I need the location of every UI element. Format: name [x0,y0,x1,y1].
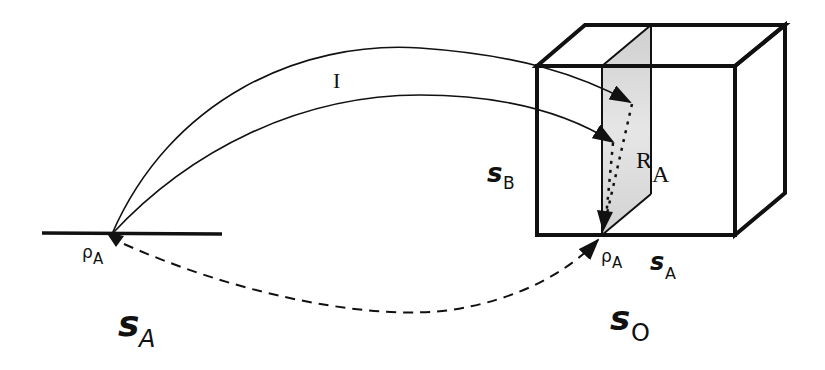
mapping-dashed-arrow [124,240,598,312]
label-s-o: s O [610,298,650,347]
svg-text:A: A [93,250,104,268]
label-s-b: s B [487,158,515,193]
plane-r-a [602,25,651,235]
label-intent: I [333,68,340,93]
label-rho-right: ρ A [601,246,623,272]
left-space-line [42,233,222,234]
svg-text:B: B [503,173,515,193]
svg-text:O: O [631,319,650,347]
svg-text:A: A [652,161,670,187]
svg-text:A: A [665,264,676,283]
svg-text:s: s [610,298,630,338]
label-rho-left: ρ A [82,242,104,268]
intent-arrow-upper [112,47,630,234]
svg-text:A: A [612,254,623,272]
svg-text:s: s [118,303,139,344]
svg-text:R: R [636,147,652,173]
svg-text:ρ: ρ [82,242,93,262]
svg-text:A: A [137,325,155,353]
cube [537,25,785,235]
svg-text:s: s [487,158,502,188]
svg-text:ρ: ρ [601,246,612,266]
label-s-a-right: s A [650,248,676,283]
label-s-a-left: s A [118,303,155,353]
diagram-canvas: I R A s B ρ A ρ A s A s A s O [0,0,825,370]
svg-text:s: s [650,248,664,276]
